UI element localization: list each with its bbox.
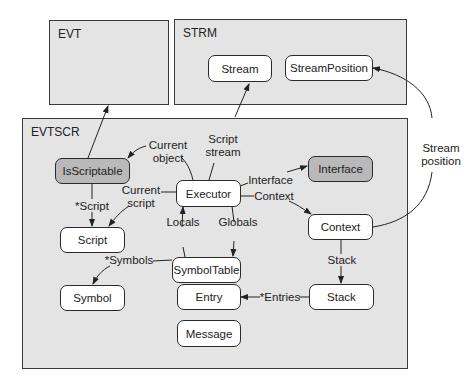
label-globals: Globals [218, 216, 258, 229]
node-script-label: Script [78, 234, 107, 246]
package-evt: EVT [49, 20, 169, 105]
node-symbol[interactable]: Symbol [60, 285, 125, 311]
node-entry-label: Entry [196, 291, 223, 303]
node-stack-label: Stack [327, 291, 356, 303]
node-executor-label: Executor [186, 188, 231, 200]
node-script[interactable]: Script [60, 227, 125, 253]
label-script-stream: Script stream [202, 133, 244, 159]
label-current-object-line2: object [146, 152, 190, 165]
label-current-script-line2: script [119, 197, 163, 210]
node-is-scriptable-label: IsScriptable [62, 165, 122, 177]
label-stream-position: Stream position [418, 142, 464, 168]
node-stack[interactable]: Stack [309, 284, 374, 310]
package-evt-label: EVT [58, 27, 81, 41]
node-stream-position[interactable]: StreamPosition [285, 55, 373, 81]
label-stack: Stack [326, 254, 358, 267]
node-is-scriptable[interactable]: IsScriptable [55, 158, 130, 184]
label-current-object-line1: Current [146, 139, 190, 152]
label-current-script-line1: Current [119, 184, 163, 197]
node-entry[interactable]: Entry [177, 284, 241, 310]
label-script-stream-line1: Script [202, 133, 244, 146]
node-stream[interactable]: Stream [208, 55, 272, 82]
label-stream-position-line1: Stream [418, 142, 464, 155]
label-symbols: *Symbols [104, 254, 154, 267]
label-stream-position-line2: position [418, 155, 464, 168]
node-message[interactable]: Message [177, 320, 241, 347]
node-message-label: Message [186, 328, 233, 340]
node-stream-position-label: StreamPosition [290, 62, 368, 74]
node-executor[interactable]: Executor [176, 180, 241, 207]
label-entries: *Entries [259, 291, 301, 304]
label-script-stream-line2: stream [202, 146, 244, 159]
node-symbol-label: Symbol [73, 292, 111, 304]
label-context: Context [254, 190, 294, 203]
node-interface[interactable]: Interface [308, 156, 373, 182]
node-context-label: Context [321, 221, 361, 233]
label-locals: Locals [166, 216, 200, 229]
label-current-script: Current script [119, 184, 163, 210]
node-symbol-table[interactable]: SymbolTable [172, 257, 241, 283]
node-stream-label: Stream [221, 63, 258, 75]
label-current-object: Current object [146, 139, 190, 165]
package-strm-label: STRM [183, 26, 217, 40]
package-evtscr-label: EVTSCR [31, 125, 80, 139]
label-interface: Interface [248, 174, 293, 187]
label-script: *Script [72, 200, 112, 213]
node-context[interactable]: Context [308, 214, 373, 240]
node-symbol-table-label: SymbolTable [174, 264, 240, 276]
node-interface-label: Interface [318, 163, 363, 175]
